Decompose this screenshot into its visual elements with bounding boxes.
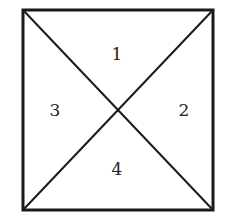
square-diagram: 1 2 3 4 — [0, 0, 229, 219]
region-label-2: 2 — [179, 100, 190, 120]
region-label-4: 4 — [112, 159, 123, 179]
region-label-1: 1 — [112, 44, 123, 64]
region-label-3: 3 — [50, 100, 61, 120]
